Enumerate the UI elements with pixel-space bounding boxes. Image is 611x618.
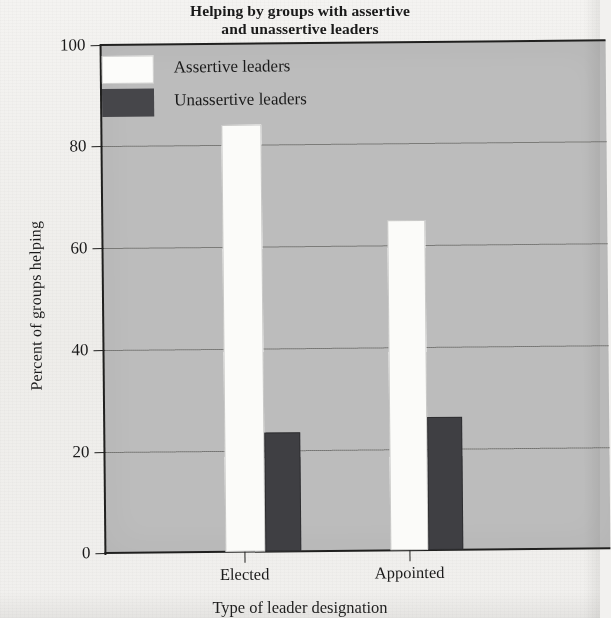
- legend-label-assertive: Assertive leaders: [174, 56, 291, 77]
- legend-swatch-unassertive: [102, 89, 154, 117]
- bar-group-container: [0, 40, 602, 554]
- x-tick-appointed: [409, 550, 410, 561]
- bar-elected-unassertive[interactable]: [264, 432, 301, 551]
- x-tick-label-appointed: Appointed: [325, 562, 495, 584]
- bar-appointed-unassertive[interactable]: [427, 417, 463, 550]
- page-edge-shadow: [584, 0, 600, 618]
- bar-elected-assertive[interactable]: [221, 125, 265, 552]
- chart-legend: Assertive leaders Unassertive leaders: [102, 56, 103, 122]
- legend-label-unassertive: Unassertive leaders: [174, 89, 307, 110]
- bar-chart: 100 80 60 40 20 0 Percent of groups help…: [0, 0, 603, 618]
- x-tick-label-elected: Elected: [160, 564, 330, 586]
- legend-swatch-assertive: [102, 56, 154, 84]
- y-tick-0: [95, 553, 106, 554]
- page-bottom-fade: [0, 592, 600, 618]
- bar-appointed-assertive[interactable]: [387, 220, 428, 550]
- x-tick-elected: [244, 552, 245, 563]
